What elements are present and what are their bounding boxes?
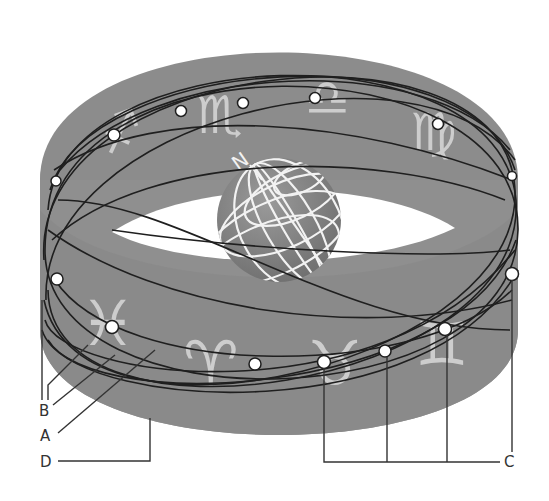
planet-dot [106,321,119,334]
planet-dot [310,93,321,104]
planet-dot [379,345,391,357]
planet-dot [176,106,187,117]
label-a: A [40,427,51,445]
planet-dot [238,98,249,109]
planet-dot [506,268,519,281]
planet-dot [51,273,63,285]
label-c: C [504,453,514,471]
planet-dot [318,356,331,369]
planet-dot [51,176,61,186]
planet-dot [249,358,261,370]
zodiac-diagram: ♐ ♏ ♎ ♍ ♓ ♈ ♉ ♊ N [0,0,549,501]
planet-dot [433,119,444,130]
label-b: B [39,402,49,420]
planet-dot [508,172,517,181]
planet-dot [439,323,452,336]
planet-dot [108,129,120,141]
zodiac-aries: ♈ [183,327,239,400]
label-d: D [40,453,52,471]
